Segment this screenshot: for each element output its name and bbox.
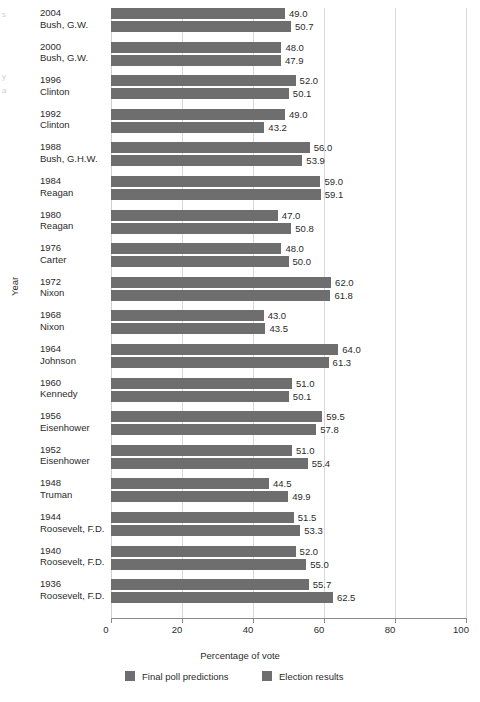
- bar-result: [111, 55, 281, 66]
- bar-poll: [111, 344, 338, 355]
- category-label: 1992Clinton: [40, 108, 108, 131]
- bar-value-poll: 48.0: [285, 243, 304, 254]
- bar-group: 64.061.3: [111, 344, 466, 370]
- category-label-person: Bush, G.W.: [40, 52, 108, 64]
- bar-result: [111, 256, 289, 267]
- bar-value-poll: 52.0: [300, 75, 319, 86]
- category-label: 1980Reagan: [40, 209, 108, 232]
- plot-area: 49.050.748.047.952.050.149.043.256.053.9…: [111, 8, 466, 618]
- bar-value-poll: 64.0: [342, 344, 361, 355]
- bar-value-poll: 43.0: [268, 310, 287, 321]
- category-label-year: 1940: [40, 545, 108, 557]
- bar-value-result: 50.1: [293, 391, 312, 402]
- legend-label-final-poll-predictions: Final poll predictions: [142, 671, 229, 682]
- category-label-year: 2000: [40, 41, 108, 53]
- bar-value-result: 53.9: [306, 155, 325, 166]
- category-label-year: 1972: [40, 276, 108, 288]
- bar-value-poll: 59.0: [324, 176, 343, 187]
- bar-value-poll: 44.5: [273, 478, 292, 489]
- bar-poll: [111, 512, 294, 523]
- bar-group: 43.043.5: [111, 310, 466, 336]
- bar-value-poll: 56.0: [314, 142, 333, 153]
- bar-poll: [111, 142, 310, 153]
- bar-group: 49.043.2: [111, 109, 466, 135]
- category-label-year: 1976: [40, 242, 108, 254]
- legend-swatch-election-results: [262, 671, 272, 681]
- bar-value-result: 43.5: [269, 323, 288, 334]
- category-label: 1952Eisenhower: [40, 444, 108, 467]
- category-label-person: Roosevelt, F.D.: [40, 556, 108, 568]
- category-label-person: Bush, G.W.: [40, 19, 108, 31]
- category-label-year: 1988: [40, 141, 108, 153]
- bar-result: [111, 592, 333, 603]
- category-label-person: Nixon: [40, 321, 108, 333]
- category-label-year: 1996: [40, 74, 108, 86]
- category-label-year: 2004: [40, 7, 108, 19]
- bar-result: [111, 88, 289, 99]
- bar-value-poll: 51.5: [298, 512, 317, 523]
- bar-result: [111, 458, 308, 469]
- category-label-year: 1980: [40, 209, 108, 221]
- bar-poll: [111, 277, 331, 288]
- x-tick-label-80: 80: [385, 624, 396, 635]
- category-label-person: Reagan: [40, 187, 108, 199]
- bar-poll: [111, 310, 264, 321]
- y-axis-title: Year: [9, 277, 20, 296]
- category-label-person: Eisenhower: [40, 455, 108, 467]
- bar-poll: [111, 243, 281, 254]
- category-label-year: 1948: [40, 477, 108, 489]
- bar-group: 48.050.0: [111, 243, 466, 269]
- category-label-person: Johnson: [40, 355, 108, 367]
- x-tick-60: [324, 618, 325, 623]
- bar-result: [111, 525, 300, 536]
- bar-poll: [111, 210, 278, 221]
- bar-group: 52.050.1: [111, 75, 466, 101]
- bar-result: [111, 357, 329, 368]
- category-label-person: Eisenhower: [40, 422, 108, 434]
- bar-value-poll: 51.0: [296, 378, 315, 389]
- bar-value-result: 49.9: [292, 491, 311, 502]
- bar-value-result: 59.1: [325, 189, 344, 200]
- bar-result: [111, 323, 265, 334]
- bar-result: [111, 491, 288, 502]
- bar-value-result: 61.3: [333, 357, 352, 368]
- category-label-person: Roosevelt, F.D.: [40, 523, 108, 535]
- bar-value-result: 57.8: [320, 424, 339, 435]
- bar-value-result: 43.2: [268, 122, 287, 133]
- bar-value-result: 47.9: [285, 55, 304, 66]
- bar-result: [111, 424, 316, 435]
- legend-item-final-poll-predictions: Final poll predictions: [125, 670, 229, 682]
- bar-result: [111, 155, 302, 166]
- bar-poll: [111, 411, 322, 422]
- category-label: 1948Truman: [40, 477, 108, 500]
- bar-poll: [111, 445, 292, 456]
- bar-poll: [111, 546, 296, 557]
- bar-group: 48.047.9: [111, 42, 466, 68]
- bar-value-poll: 55.7: [313, 579, 332, 590]
- category-label-year: 1944: [40, 511, 108, 523]
- bar-poll: [111, 42, 281, 53]
- bar-value-poll: 49.0: [289, 8, 308, 19]
- bar-value-result: 61.8: [334, 290, 353, 301]
- legend-item-election-results: Election results: [262, 670, 343, 682]
- category-label-year: 1956: [40, 410, 108, 422]
- category-label-person: Reagan: [40, 220, 108, 232]
- bar-poll: [111, 378, 292, 389]
- bar-value-result: 50.0: [293, 256, 312, 267]
- category-label-person: Bush, G.H.W.: [40, 153, 108, 165]
- category-label-year: 1960: [40, 377, 108, 389]
- category-label-year: 1968: [40, 309, 108, 321]
- bar-value-result: 62.5: [337, 592, 356, 603]
- bar-value-result: 53.3: [304, 525, 323, 536]
- bar-group: 47.050.8: [111, 210, 466, 236]
- bar-chart: 49.050.748.047.952.050.149.043.256.053.9…: [0, 0, 480, 702]
- x-tick-80: [395, 618, 396, 623]
- category-label: 1976Carter: [40, 242, 108, 265]
- x-tick-100: [466, 618, 467, 623]
- category-label: 1968Nixon: [40, 309, 108, 332]
- x-tick-20: [182, 618, 183, 623]
- x-tick-label-40: 40: [243, 624, 254, 635]
- x-tick-label-60: 60: [314, 624, 325, 635]
- category-label: 1984Reagan: [40, 175, 108, 198]
- x-tick-label-100: 100: [453, 624, 469, 635]
